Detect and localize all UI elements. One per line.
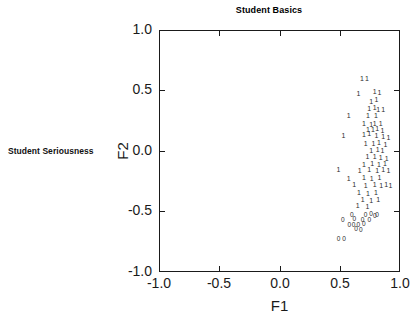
data-point-class-1: 1	[374, 112, 378, 119]
page-title: Student Basics	[0, 5, 419, 15]
data-point-class-0: 0	[359, 226, 363, 233]
data-point-class-1: 1	[373, 88, 377, 95]
data-point-class-1: 1	[369, 197, 373, 204]
data-point-class-1: 1	[367, 130, 371, 137]
data-point-class-0: 0	[375, 210, 379, 217]
data-point-class-1: 1	[388, 181, 392, 188]
y-tick-label-3: 0.0	[100, 142, 152, 158]
data-point-class-1: 1	[387, 166, 391, 173]
data-point-class-1: 1	[362, 160, 366, 167]
data-point-class-1: 1	[381, 165, 385, 172]
data-point-class-1: 1	[373, 180, 377, 187]
data-point-class-1: 1	[366, 153, 370, 160]
data-point-class-1: 1	[362, 174, 366, 181]
data-point-class-0: 0	[341, 215, 345, 222]
data-point-class-1: 1	[365, 74, 369, 81]
data-point-class-1: 1	[362, 131, 366, 138]
data-point-class-1: 1	[357, 189, 361, 196]
data-point-class-1: 1	[364, 139, 368, 146]
x-tick-label-4: 0.5	[310, 275, 370, 291]
data-point-class-1: 1	[378, 174, 382, 181]
data-point-class-1: 1	[347, 174, 351, 181]
data-point-class-1: 1	[375, 95, 379, 102]
data-point-class-1: 1	[358, 166, 362, 173]
data-point-class-1: 1	[379, 182, 383, 189]
scatter-plot-figure: Student Basics Student Seriousness F2 F1…	[0, 0, 419, 322]
x-tick-label-2: -0.5	[189, 275, 249, 291]
x-tick-label-5: 1.0	[370, 275, 419, 291]
data-point-class-0: 0	[342, 235, 346, 242]
data-point-class-1: 1	[374, 188, 378, 195]
data-point-class-1: 1	[356, 89, 360, 96]
data-point-class-1: 1	[373, 152, 377, 159]
data-point-class-1: 1	[366, 111, 370, 118]
x-tick-label-1: -1.0	[129, 275, 189, 291]
data-point-class-1: 1	[356, 202, 360, 209]
y-tick-label-2: 0.5	[100, 81, 152, 97]
data-point-class-0: 0	[367, 216, 371, 223]
data-point-class-1: 1	[378, 88, 382, 95]
x-axis-title: F1	[159, 297, 400, 314]
data-point-class-1: 1	[352, 181, 356, 188]
data-point-class-1: 1	[360, 74, 364, 81]
plot-data-area: 1111111111111111111111111111111111111111…	[159, 30, 400, 272]
data-point-class-1: 1	[361, 196, 365, 203]
y-tick-label-1: 1.0	[100, 21, 152, 37]
data-point-class-1: 1	[337, 166, 341, 173]
data-point-class-1: 1	[381, 133, 385, 140]
y-tick-label-4: -0.5	[100, 202, 152, 218]
data-point-class-1: 1	[341, 131, 345, 138]
x-tick-label-3: 0.0	[250, 275, 310, 291]
data-point-class-1: 1	[366, 189, 370, 196]
side-annotation-label: Student Seriousness	[8, 146, 94, 156]
data-point-class-1: 1	[375, 125, 379, 132]
data-point-class-1: 1	[379, 119, 383, 126]
data-point-class-1: 1	[377, 138, 381, 145]
data-point-class-1: 1	[367, 166, 371, 173]
data-point-class-1: 1	[364, 181, 368, 188]
data-point-class-0: 0	[354, 225, 358, 232]
data-point-class-1: 1	[381, 105, 385, 112]
data-point-class-0: 0	[337, 235, 341, 242]
data-point-class-1: 1	[376, 195, 380, 202]
data-point-class-1: 1	[347, 111, 351, 118]
data-point-class-1: 1	[366, 203, 370, 210]
data-point-class-0: 0	[348, 220, 352, 227]
